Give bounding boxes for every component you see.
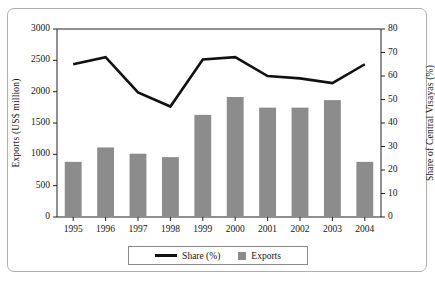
x-tick-label: 2004 [345,224,385,234]
line-series-share [73,57,365,106]
right-tick-label: 40 [388,117,398,127]
chart-plot-area [0,0,435,281]
chart-figure: Exports (US$ million) Share of Central V… [0,0,435,281]
right-axis-ticks [381,29,385,217]
left-tick-label: 2500 [8,54,50,64]
right-tick-label: 50 [388,94,398,104]
chart-legend: Share (%) Exports [128,246,308,265]
bar-series-exports [65,97,373,217]
right-tick-label: 0 [388,211,393,221]
left-tick-label: 3000 [8,23,50,33]
bar-1997 [130,154,147,217]
right-tick-label: 60 [388,70,398,80]
legend-item-exports: Exports [238,251,281,261]
bar-2004 [356,162,373,217]
right-tick-label: 20 [388,164,398,174]
right-axis-title: Share of Central Visayas (%) [425,48,435,198]
right-tick-label: 10 [388,188,398,198]
left-tick-label: 2000 [8,86,50,96]
bar-1998 [162,157,179,217]
bar-2001 [259,108,276,217]
x-axis-ticks [73,217,365,221]
left-tick-label: 500 [8,180,50,190]
legend-square-marker [238,252,246,260]
legend-label-exports: Exports [251,251,281,261]
left-tick-label: 0 [8,211,50,221]
bar-2003 [324,100,341,217]
legend-line-marker [155,254,177,257]
left-axis-ticks [53,29,57,217]
left-tick-label: 1000 [8,148,50,158]
bar-2000 [227,97,244,217]
bar-1999 [194,115,211,217]
legend-label-share: Share (%) [182,251,220,261]
bar-2002 [292,108,309,217]
share-line [73,57,365,106]
bar-1995 [65,162,82,217]
right-tick-label: 70 [388,47,398,57]
right-tick-label: 80 [388,23,398,33]
bar-1996 [97,147,114,217]
legend-item-share: Share (%) [155,251,220,261]
right-tick-label: 30 [388,141,398,151]
left-tick-label: 1500 [8,117,50,127]
